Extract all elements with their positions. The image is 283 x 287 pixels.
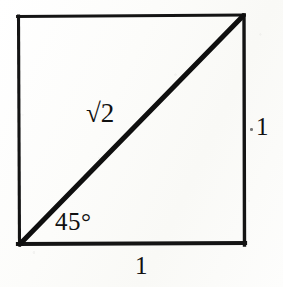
square-bottom-edge: [18, 243, 245, 244]
geometry-figure: √2 45° 1 1: [0, 0, 283, 287]
square-right-edge: [244, 15, 245, 245]
square-top-edge: [18, 15, 245, 17]
diagonal-line: [20, 16, 243, 244]
scan-speck: [250, 128, 253, 131]
sqrt-two-text: √2: [86, 100, 114, 127]
right-side-length-label: 1: [256, 114, 269, 139]
square-left-edge: [19, 16, 20, 245]
bottom-side-length-label: 1: [135, 253, 148, 278]
hypotenuse-label: √2: [86, 100, 114, 127]
diagram-canvas: [0, 0, 283, 287]
angle-label-45: 45°: [55, 209, 92, 234]
